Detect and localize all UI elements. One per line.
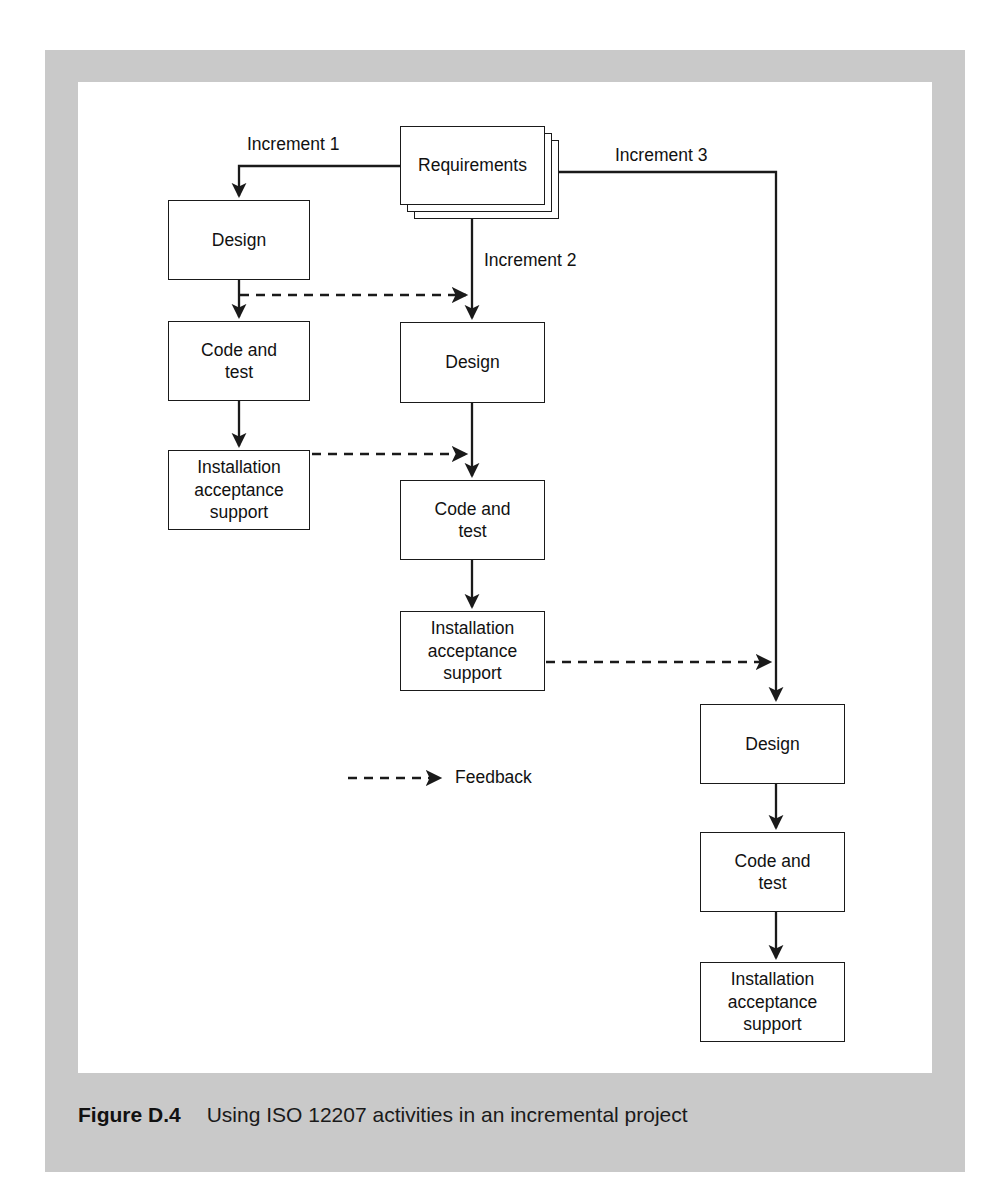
node-code-and-test-2-label: Code and test	[435, 498, 511, 543]
label-increment-1: Increment 1	[247, 134, 339, 155]
node-design-1-label: Design	[212, 229, 266, 251]
figure-caption-label: Figure D.4	[78, 1103, 181, 1127]
node-installation-1[interactable]: Installation acceptance support	[168, 450, 310, 530]
node-requirements-label: Requirements	[418, 154, 527, 176]
node-code-and-test-1[interactable]: Code and test	[168, 321, 310, 401]
node-installation-3[interactable]: Installation acceptance support	[700, 962, 845, 1042]
node-code-and-test-3[interactable]: Code and test	[700, 832, 845, 912]
node-design-2[interactable]: Design	[400, 322, 545, 403]
node-code-and-test-3-label: Code and test	[735, 850, 811, 895]
node-code-and-test-1-label: Code and test	[201, 339, 277, 384]
label-increment-2: Increment 2	[484, 250, 576, 271]
node-installation-2[interactable]: Installation acceptance support	[400, 611, 545, 691]
node-design-3[interactable]: Design	[700, 704, 845, 784]
node-requirements[interactable]: Requirements	[400, 126, 545, 205]
figure-caption-text: Using ISO 12207 activities in an increme…	[207, 1103, 688, 1127]
node-design-2-label: Design	[445, 351, 499, 373]
figure-caption: Figure D.4 Using ISO 12207 activities in…	[78, 1092, 932, 1138]
label-increment-3: Increment 3	[615, 145, 707, 166]
node-installation-2-label: Installation acceptance support	[428, 617, 518, 684]
node-design-1[interactable]: Design	[168, 200, 310, 280]
legend-feedback-label: Feedback	[455, 767, 532, 788]
node-design-3-label: Design	[745, 733, 799, 755]
figure-page: Requirements Design Code and test Instal…	[0, 0, 1000, 1203]
node-installation-1-label: Installation acceptance support	[194, 456, 284, 523]
node-installation-3-label: Installation acceptance support	[728, 968, 818, 1035]
node-code-and-test-2[interactable]: Code and test	[400, 480, 545, 560]
